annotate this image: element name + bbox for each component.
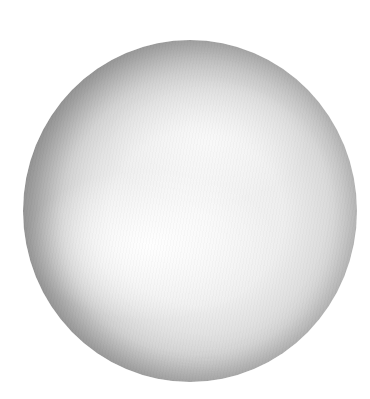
canvas <box>0 0 370 399</box>
sphere <box>23 40 357 382</box>
